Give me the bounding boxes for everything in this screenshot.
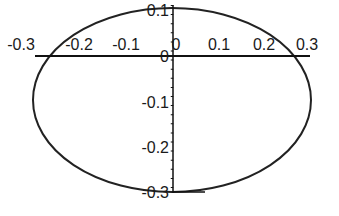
x-tick-label: -0.3 (7, 36, 35, 53)
y-tick-label: 0.1 (147, 2, 169, 19)
y-tick-labels: 0.1 0 -0.1 -0.2 -0.3 (141, 2, 169, 201)
ellipse-plot: -0.3 -0.2 -0.1 0 0.1 0.2 0.3 0.1 0 -0.1 … (0, 0, 339, 216)
y-tick-label: -0.1 (141, 94, 169, 111)
x-tick-label: 0.1 (208, 36, 230, 53)
x-tick-label: -0.1 (112, 36, 140, 53)
y-tick-label: -0.2 (141, 139, 169, 156)
y-tick-label: -0.3 (141, 184, 169, 201)
x-tick-label: 0.3 (296, 36, 318, 53)
x-tick-label: 0 (172, 36, 181, 53)
x-tick-label: -0.2 (65, 36, 93, 53)
x-tick-label: 0.2 (253, 36, 275, 53)
y-tick-label: 0 (160, 48, 169, 65)
